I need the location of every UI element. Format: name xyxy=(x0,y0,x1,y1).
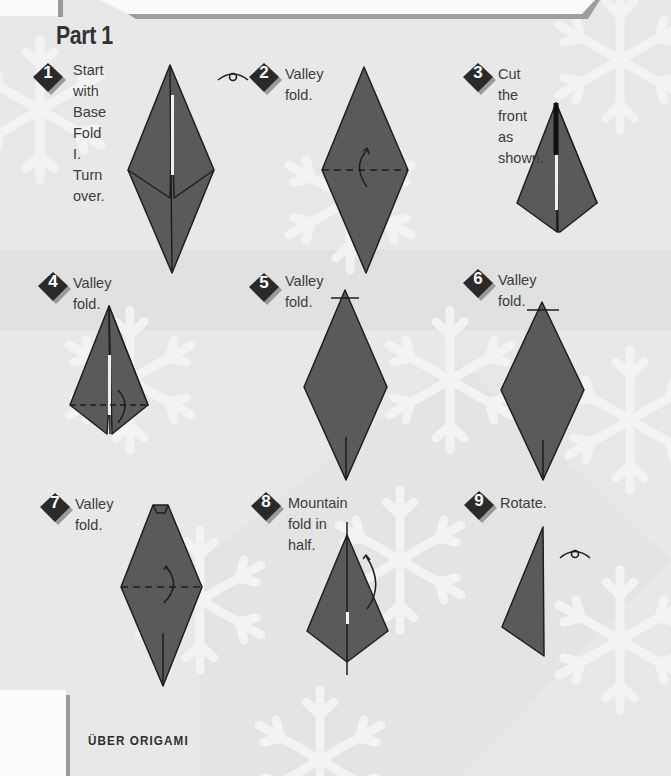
step-instruction: Cut the front as shown. xyxy=(498,64,544,169)
step-number: 9 xyxy=(471,491,487,511)
step-number: 4 xyxy=(45,272,61,292)
footer-margin-panel xyxy=(0,690,66,776)
step-number: 6 xyxy=(470,269,486,289)
step-instruction: Start with Base Fold I. Turn over. xyxy=(73,60,106,207)
step-number: 1 xyxy=(40,63,56,83)
step-instruction: Valley fold. xyxy=(73,273,111,315)
step-instruction: Mountain fold in half. xyxy=(288,493,348,556)
step-instruction: Valley fold. xyxy=(498,270,536,312)
step-number: 7 xyxy=(47,493,63,513)
step-number: 5 xyxy=(256,273,272,293)
step-instruction: Rotate. xyxy=(500,493,547,514)
footer-book-title: ÜBER ORIGAMI xyxy=(88,733,189,748)
footer-divider xyxy=(66,695,70,776)
section-title: Part 1 xyxy=(56,20,113,51)
step-instruction: Valley fold. xyxy=(285,271,323,313)
step-number: 8 xyxy=(258,492,274,512)
step-number: 2 xyxy=(256,63,272,83)
step-instruction: Valley fold. xyxy=(285,64,323,106)
step-number: 3 xyxy=(470,63,486,83)
step-instruction: Valley fold. xyxy=(75,494,113,536)
